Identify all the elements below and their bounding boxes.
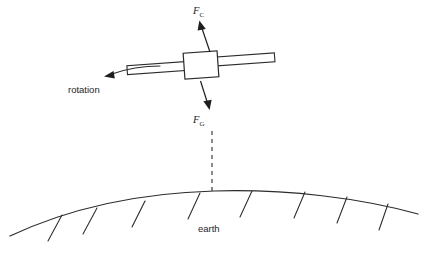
centrifugal-arrow-shaft <box>202 27 211 52</box>
satellite-group <box>126 47 275 83</box>
hatch-mark <box>188 193 200 219</box>
force-gravity-subscript: G <box>199 120 204 128</box>
hatch-mark <box>132 201 145 227</box>
hatch-mark <box>83 208 97 234</box>
solar-panel-right <box>216 53 274 66</box>
hatch-mark <box>294 192 305 218</box>
force-centrifugal-subscript: C <box>199 11 204 19</box>
centrifugal-force-arrow <box>198 21 210 53</box>
centrifugal-arrow-head <box>198 21 206 31</box>
gravity-arrow-shaft <box>201 81 208 103</box>
gravity-arrow-head <box>203 100 211 110</box>
satellite-body <box>183 51 219 79</box>
hatch-mark <box>379 204 388 230</box>
hatch-mark <box>337 197 347 223</box>
label-force-gravity: FG <box>192 114 204 128</box>
label-earth: earth <box>198 223 220 234</box>
diagram-canvas: FC FG rotation earth <box>0 0 426 262</box>
rotation-arrow-head <box>104 71 115 78</box>
hatch-mark <box>240 191 252 217</box>
orbit-force-diagram: FC FG rotation earth <box>0 0 426 262</box>
gravity-force-arrow <box>201 81 212 110</box>
label-force-centrifugal: FC <box>192 5 204 19</box>
hatch-mark <box>48 215 62 241</box>
label-rotation: rotation <box>68 84 100 95</box>
